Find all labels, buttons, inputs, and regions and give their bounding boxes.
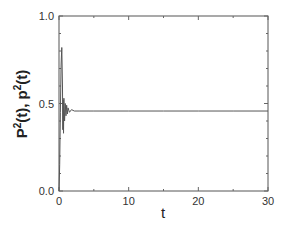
chart: 0.00.51.0 0102030 t P2(t), p2(t) — [0, 0, 285, 232]
y-axis-title: P2(t), p2(t) — [12, 70, 30, 139]
x-tick-label: 0 — [56, 195, 62, 207]
y-tick-label: 1.0 — [39, 10, 54, 22]
y-tick-label: 0.0 — [39, 185, 54, 197]
x-tick-label: 10 — [123, 195, 135, 207]
x-tick-label: 30 — [262, 195, 274, 207]
y-tick-label: 0.5 — [39, 98, 54, 110]
x-axis-title: t — [161, 204, 166, 221]
x-tick-label: 20 — [192, 195, 204, 207]
plot-frame — [59, 16, 268, 191]
y-tick-labels: 0.00.51.0 — [39, 10, 54, 197]
axis-ticks — [59, 16, 268, 191]
data-line — [59, 48, 268, 192]
